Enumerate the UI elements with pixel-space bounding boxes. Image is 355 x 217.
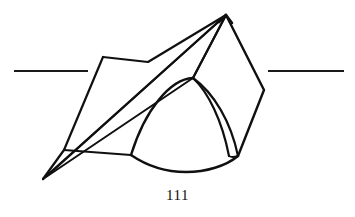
figure-canvas: 111 [0,0,355,217]
crescent-base-tip [229,156,238,157]
line-drawing-figure [0,0,355,217]
figure-caption: 111 [0,186,355,204]
